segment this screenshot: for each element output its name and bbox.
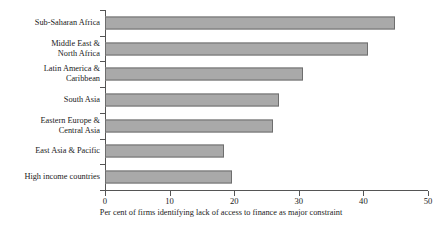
bar — [105, 145, 224, 158]
bar-track — [105, 36, 428, 62]
bar — [105, 16, 395, 29]
category-label: Latin America & Caribbean — [44, 64, 100, 84]
bar-track — [105, 113, 428, 139]
y-tick-mark — [100, 87, 105, 88]
category-label: Eastern Europe & Central Asia — [41, 115, 100, 135]
bar — [105, 68, 303, 81]
category-label: Sub-Saharan Africa — [35, 18, 100, 28]
x-tick-label: 20 — [214, 196, 254, 206]
bar — [105, 93, 279, 106]
y-tick-mark — [100, 36, 105, 37]
bar-row: South Asia — [0, 87, 442, 113]
x-tick-label: 30 — [279, 196, 319, 206]
bar-rows: Sub-Saharan AfricaMiddle East & North Af… — [0, 10, 442, 190]
bar-chart-figure: Sub-Saharan AfricaMiddle East & North Af… — [0, 0, 442, 229]
bar-row: High income countries — [0, 164, 442, 190]
x-tick-label: 10 — [150, 196, 190, 206]
bar-row: East Asia & Pacific — [0, 139, 442, 165]
bar — [105, 42, 368, 55]
category-label: South Asia — [64, 95, 100, 105]
bar-track — [105, 61, 428, 87]
x-tick-label: 0 — [85, 196, 125, 206]
bar-track — [105, 139, 428, 165]
bar-track — [105, 164, 428, 190]
bar-row: Sub-Saharan Africa — [0, 10, 442, 36]
category-label: Middle East & North Africa — [51, 38, 100, 58]
y-tick-mark — [100, 10, 105, 11]
bar-track — [105, 87, 428, 113]
bar-track — [105, 10, 428, 36]
category-label: High income countries — [24, 172, 100, 182]
y-tick-mark — [100, 164, 105, 165]
y-tick-mark — [100, 61, 105, 62]
y-tick-mark — [100, 139, 105, 140]
bar — [105, 171, 232, 184]
bar-row: Eastern Europe & Central Asia — [0, 113, 442, 139]
x-axis-line — [105, 190, 428, 191]
x-tick-label: 50 — [408, 196, 442, 206]
bar-row: Middle East & North Africa — [0, 36, 442, 62]
x-tick-label: 40 — [343, 196, 383, 206]
category-label: East Asia & Pacific — [35, 146, 100, 156]
bar — [105, 119, 273, 132]
bar-row: Latin America & Caribbean — [0, 61, 442, 87]
x-axis-caption: Per cent of firms identifying lack of ac… — [0, 208, 442, 217]
y-tick-mark — [100, 113, 105, 114]
